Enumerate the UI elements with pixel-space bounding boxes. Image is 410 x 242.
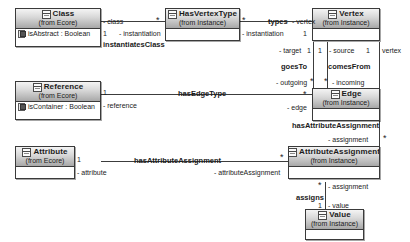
class-attributes-class: isAbstract : Boolean <box>16 29 100 38</box>
class-title: Reference <box>44 83 84 91</box>
class-box-attributeassignment[interactable]: AttributeAssignment (from Instance) <box>288 146 380 179</box>
class-attributes-hasvertextype <box>166 29 239 38</box>
association-line-hasAttributeAssignment-edge <box>379 117 380 146</box>
role-label-outgoing: - outgoing <box>276 79 307 86</box>
class-title: HasVertexType <box>179 10 237 18</box>
class-attributes-attribute <box>16 167 74 176</box>
association-name-instantiatesClass: instantiatesClass <box>103 41 165 49</box>
multiplicity-one-target: 1 <box>307 47 311 54</box>
association-name-types: types <box>268 18 288 26</box>
multiplicity-star-edge: * <box>303 90 307 99</box>
role-label-instantiation-right: - instantiation <box>242 30 284 37</box>
class-header-edge: Edge (from Instance) <box>313 89 379 109</box>
multiplicity-one-source: 1 <box>318 47 322 54</box>
class-box-vertex[interactable]: Vertex (from Instance) <box>312 8 380 41</box>
multiplicity-one-class: 1 <box>103 30 107 37</box>
class-box-edge[interactable]: Edge (from Instance) <box>312 88 380 121</box>
role-label-reference: - reference <box>103 102 137 109</box>
class-name-row-attributeassignment: AttributeAssignment <box>291 148 377 157</box>
attribute-row: isAbstract : Boolean <box>16 29 100 38</box>
class-attributes-reference: isContainer : Boolean <box>16 102 100 111</box>
association-name-hasEdgeType: hasEdgeType <box>178 90 226 98</box>
class-icon <box>331 90 340 99</box>
class-header-value: Value (from Instance) <box>306 210 363 230</box>
class-header-hasvertextype: HasVertexType (from Instance) <box>166 9 239 29</box>
class-name-row-reference: Reference <box>18 83 98 92</box>
class-attributes-vertex <box>313 29 379 38</box>
multiplicity-one-attribute: 1 <box>77 156 81 163</box>
class-package: (from Instance) <box>168 19 237 26</box>
multiplicity-star-types: * <box>242 16 246 25</box>
class-icon <box>42 10 51 19</box>
attribute-icon <box>18 30 26 37</box>
role-label-edge: - edge <box>287 104 307 111</box>
class-title: Class <box>53 10 75 18</box>
multiplicity-star-incoming: * <box>324 77 328 86</box>
association-name-comesFrom: comesFrom <box>328 63 371 71</box>
class-icon <box>22 148 31 157</box>
multiplicity-one-types: 1 <box>303 30 307 37</box>
class-icon <box>328 10 337 19</box>
role-label-vertex: - vertex <box>292 18 315 25</box>
multiplicity-one-value: 1 <box>318 202 322 209</box>
multiplicity-star-assignment-bottom: * <box>318 181 322 190</box>
class-name-row-vertex: Vertex <box>315 10 377 19</box>
class-package: (from Instance) <box>315 99 377 106</box>
multiplicity-star-outgoing: * <box>310 77 314 86</box>
role-label-vertex-right: vertex <box>382 47 401 54</box>
attribute-row: isContainer : Boolean <box>16 102 100 111</box>
role-label-incoming: - incoming <box>332 79 364 86</box>
class-header-attributeassignment: AttributeAssignment (from Instance) <box>289 147 379 167</box>
class-icon <box>168 10 177 19</box>
class-name-row-class: Class <box>18 10 98 19</box>
class-name-row-attribute: Attribute <box>18 148 72 157</box>
class-box-value[interactable]: Value (from Instance) <box>305 209 364 240</box>
class-attributes-edge <box>313 109 379 118</box>
class-box-hasvertextype[interactable]: HasVertexType (from Instance) <box>165 8 240 41</box>
role-label-class: - class <box>103 18 123 25</box>
multiplicity-star-attrassign-left: * <box>280 153 284 162</box>
attribute-label: isContainer : Boolean <box>28 103 95 110</box>
class-icon <box>33 83 42 92</box>
multiplicity-star-instantiation: * <box>156 16 160 25</box>
association-line-assigns <box>325 182 326 210</box>
class-package: (from Ecore) <box>18 157 72 164</box>
multiplicity-one-reference: 1 <box>103 89 107 96</box>
class-package: (from Ecore) <box>18 19 98 26</box>
class-package: (from Ecore) <box>18 92 98 99</box>
role-label-value: - value <box>328 202 349 209</box>
role-label-attributeAssignment: - attributeAssignment <box>214 169 280 176</box>
role-label-target: - target <box>279 47 301 54</box>
role-label-assignment-bottom: - assignment <box>328 183 368 190</box>
class-attributes-value <box>306 230 363 239</box>
association-name-hasAttributeAssignment-edge: hasAttributeAssignment <box>292 122 379 130</box>
class-box-attribute[interactable]: Attribute (from Ecore) <box>15 146 75 179</box>
role-label-source: - source <box>329 47 354 54</box>
class-name-row-value: Value <box>308 211 361 220</box>
class-header-vertex: Vertex (from Instance) <box>313 9 379 29</box>
class-title: Vertex <box>339 10 364 18</box>
class-name-row-hasvertextype: HasVertexType <box>168 10 237 19</box>
class-icon <box>318 211 327 220</box>
attribute-icon <box>18 103 26 110</box>
class-title: Edge <box>342 90 362 98</box>
role-label-assignment-top: - assignment <box>328 136 368 143</box>
class-package: (from Instance) <box>315 19 377 26</box>
multiplicity-star-assignment-top: * <box>383 134 387 143</box>
class-package: (from Instance) <box>291 157 377 164</box>
class-attributes-attributeassignment <box>289 167 379 176</box>
association-name-goesTo: goesTo <box>281 63 307 71</box>
class-box-class[interactable]: Class (from Ecore) isAbstract : Boolean <box>15 8 101 47</box>
class-package: (from Instance) <box>308 220 361 227</box>
association-name-assigns: assigns <box>296 194 324 202</box>
class-header-class: Class (from Ecore) <box>16 9 100 29</box>
class-box-reference[interactable]: Reference (from Ecore) isContainer : Boo… <box>15 81 101 120</box>
class-title: Attribute <box>33 148 67 156</box>
class-title: Value <box>329 211 350 219</box>
role-label-attribute: - attribute <box>77 169 107 176</box>
class-header-reference: Reference (from Ecore) <box>16 82 100 102</box>
class-title: AttributeAssignment <box>299 148 380 156</box>
role-label-instantiation-left: - instantiation <box>119 30 161 37</box>
class-icon <box>288 148 297 157</box>
attribute-label: isAbstract : Boolean <box>28 30 90 37</box>
